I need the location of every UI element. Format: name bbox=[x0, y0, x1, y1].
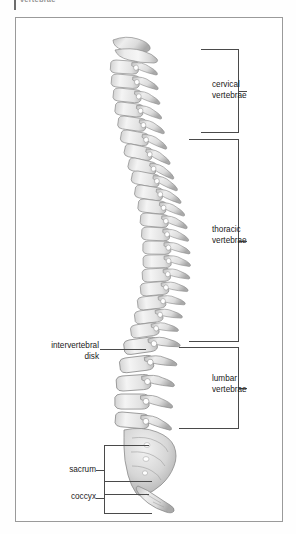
label-thoracic-vertebrae: thoracic vertebrae bbox=[212, 225, 247, 246]
figure-page: vertebrae bbox=[0, 0, 296, 534]
label-intervertebral-disk: intervertebral disk bbox=[17, 341, 99, 362]
caption-rule bbox=[14, 0, 16, 10]
top-caption-fragment: vertebrae bbox=[20, 0, 56, 4]
label-coccyx: coccyx bbox=[36, 492, 96, 503]
label-lumbar-vertebrae: lumbar vertebrae bbox=[212, 374, 247, 395]
figure-frame: cervical vertebrae thoracic vertebrae lu… bbox=[15, 17, 283, 522]
leader-intervertebral-disk bbox=[100, 349, 146, 350]
bracket-coccyx bbox=[104, 481, 152, 514]
label-sacrum: sacrum bbox=[36, 465, 96, 476]
label-cervical-vertebrae: cervical vertebrae bbox=[212, 80, 247, 101]
